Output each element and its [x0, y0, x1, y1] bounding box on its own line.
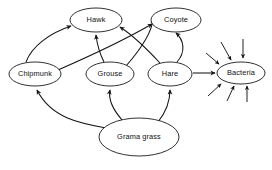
node-grouse[interactable]: Grouse [86, 62, 134, 86]
grouse-label: Grouse [98, 69, 123, 78]
node-hare[interactable]: Hare [148, 62, 192, 86]
node-bacteria[interactable]: Bacteria [217, 62, 265, 84]
grama-grass-label: Grama grass [117, 132, 161, 141]
node-chipmunk[interactable]: Chipmunk [9, 62, 61, 86]
node-coyote[interactable]: Coyote [151, 8, 201, 32]
chipmunk-label: Chipmunk [18, 69, 52, 78]
coyote-label: Coyote [164, 15, 188, 24]
node-grama-grass[interactable]: Grama grass [99, 118, 179, 156]
node-hawk[interactable]: Hawk [70, 8, 122, 32]
food-web-diagram: Hawk Coyote Chipmunk Grouse Hare Bacteri… [0, 0, 272, 170]
hawk-label: Hawk [87, 15, 106, 24]
bacteria-label: Bacteria [227, 68, 256, 77]
hare-label: Hare [162, 69, 178, 78]
